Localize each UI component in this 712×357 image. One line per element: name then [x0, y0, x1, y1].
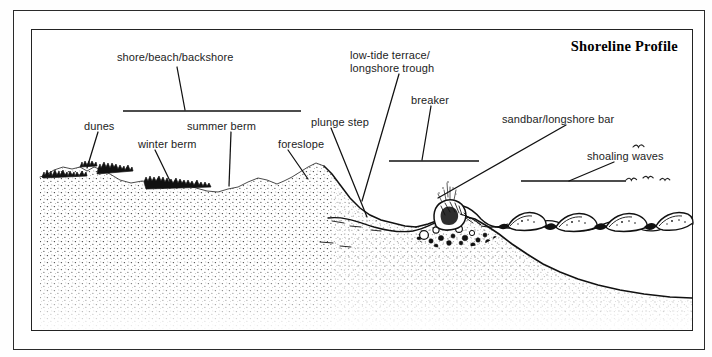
leader-low-tide-terrace — [362, 74, 399, 201]
bird-icon — [643, 176, 653, 178]
label-sandbar-longshore-bar: sandbar/longshore bar — [502, 113, 614, 125]
label-breaker: breaker — [411, 94, 449, 106]
wave-crest — [594, 214, 647, 232]
shoaling-waves — [496, 213, 693, 232]
leader-breaker — [422, 106, 431, 160]
wave-crest — [644, 213, 693, 231]
leader-winter-berm — [155, 150, 170, 181]
label-longshore-trough: longshore trough — [350, 62, 434, 74]
label-plunge-step: plunge step — [311, 116, 369, 128]
leader-summer-berm — [229, 132, 231, 186]
bird-icon — [626, 178, 637, 180]
label-shoaling-waves: shoaling waves — [587, 150, 664, 162]
label-summer-berm: summer berm — [187, 120, 256, 132]
leader-shoaling-waves — [569, 162, 614, 181]
label-foreslope: foreslope — [278, 138, 324, 150]
wave-crest — [544, 214, 597, 232]
label-dunes: dunes — [84, 120, 114, 132]
label-low-tide-terrace: low-tide terrace/ — [350, 49, 430, 61]
leader-shore-beach-backshore — [177, 67, 185, 110]
bird-icon — [633, 145, 644, 147]
figure-page: Shoreline Profile — [0, 0, 712, 357]
wave-crest — [498, 213, 546, 231]
bird-icon — [660, 178, 670, 180]
label-shore-beach-backshore: shore/beach/backshore — [117, 51, 233, 63]
shoreline-profile-illustration — [32, 30, 694, 332]
label-winter-berm: winter berm — [138, 138, 197, 150]
